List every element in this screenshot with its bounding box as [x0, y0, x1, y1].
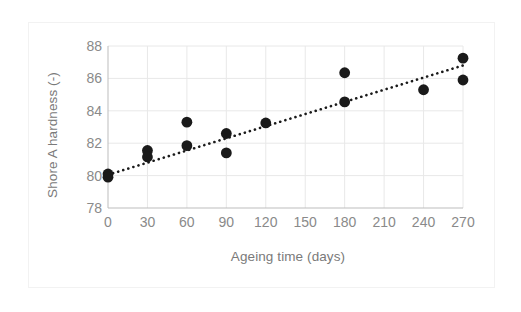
y-tick-label: 86	[62, 71, 102, 85]
data-point	[458, 53, 469, 64]
data-point	[458, 75, 469, 86]
gridlines	[108, 46, 463, 208]
x-axis-tick-labels: 0306090120150180210240270	[108, 215, 463, 235]
data-point	[339, 67, 350, 78]
data-point	[221, 148, 232, 159]
plot-svg	[108, 46, 463, 208]
x-tick-label: 180	[323, 215, 367, 229]
y-tick-label: 84	[62, 104, 102, 118]
y-tick-label: 88	[62, 39, 102, 53]
data-point	[181, 117, 192, 128]
y-tick-label: 82	[62, 136, 102, 150]
x-tick-label: 90	[204, 215, 248, 229]
data-points	[103, 53, 469, 183]
y-tick-label: 80	[62, 169, 102, 183]
x-axis-title: Ageing time (days)	[108, 249, 468, 264]
x-tick-label: 120	[244, 215, 288, 229]
data-point	[181, 140, 192, 151]
data-point	[418, 84, 429, 95]
x-tick-label: 60	[165, 215, 209, 229]
data-point	[142, 152, 153, 163]
data-point	[221, 128, 232, 139]
x-tick-label: 30	[125, 215, 169, 229]
data-point	[103, 172, 114, 183]
x-tick-label: 150	[283, 215, 327, 229]
chart-figure: Shore A hardness (-) 788082848688 030609…	[0, 0, 521, 312]
x-tick-label: 270	[441, 215, 485, 229]
y-axis-tick-labels: 788082848688	[58, 46, 102, 208]
x-tick-label: 240	[402, 215, 446, 229]
x-tick-label: 0	[86, 215, 130, 229]
plot-area	[108, 46, 463, 208]
data-point	[339, 96, 350, 107]
x-tick-label: 210	[362, 215, 406, 229]
trend-line	[108, 65, 463, 174]
data-point	[260, 118, 271, 129]
y-tick-label: 78	[62, 201, 102, 215]
